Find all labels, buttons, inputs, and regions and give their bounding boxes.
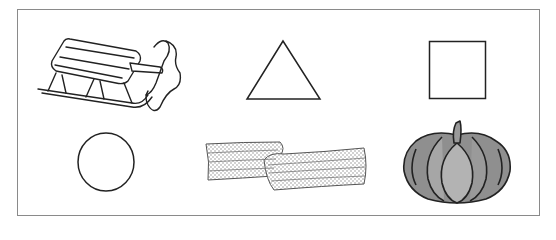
- pumpkin-picture: [402, 119, 512, 205]
- square-icon: [428, 40, 488, 100]
- scarf-picture: [204, 140, 370, 192]
- circle-icon: [76, 131, 136, 193]
- scarf-icon: [204, 140, 370, 192]
- triangle-icon: [245, 39, 323, 103]
- sled-icon: [36, 33, 182, 115]
- triangle-shape: [245, 39, 323, 103]
- circle-shape: [76, 131, 136, 193]
- sled-picture: [36, 33, 182, 115]
- square-shape: [428, 40, 488, 100]
- pumpkin-icon: [402, 119, 512, 205]
